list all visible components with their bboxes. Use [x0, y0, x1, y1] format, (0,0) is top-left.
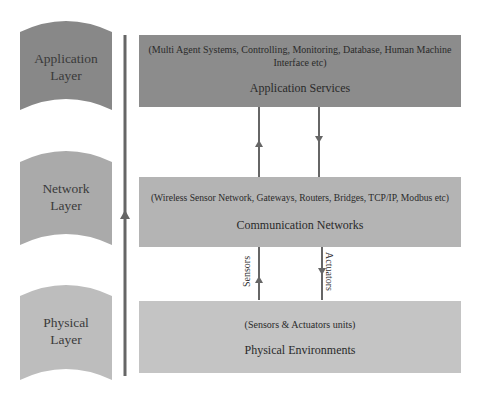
network-layer-label: Network Layer: [20, 180, 112, 214]
layer-label-line1: Application: [20, 50, 112, 67]
communication-networks-box: (Wireless Sensor Network, Gateways, Rout…: [139, 177, 461, 247]
layer-label-line1: Physical: [20, 314, 112, 331]
physical-environments-subtitle: (Sensors & Actuators units): [139, 318, 461, 331]
application-services-box: (Multi Agent Systems, Controlling, Monit…: [139, 35, 461, 107]
communication-networks-subtitle: (Wireless Sensor Network, Gateways, Rout…: [139, 191, 461, 204]
layer-label-line2: Layer: [20, 197, 112, 214]
physical-layer-label: Physical Layer: [20, 314, 112, 348]
layer-label-line2: Layer: [20, 67, 112, 84]
sensors-label: Sensors: [241, 256, 252, 287]
communication-networks-title: Communication Networks: [139, 218, 461, 233]
layer-label-line2: Layer: [20, 331, 112, 348]
actuators-label: Actuators: [324, 252, 335, 291]
main-arrow-head-icon: [120, 210, 130, 219]
physical-environments-title: Physical Environments: [139, 343, 461, 358]
application-services-title: Application Services: [145, 81, 455, 96]
up-arrowhead-icon: [255, 140, 263, 147]
application-services-subtitle: (Multi Agent Systems, Controlling, Monit…: [145, 43, 455, 69]
sensors-arrowhead-icon: [255, 276, 263, 283]
layer-label-line1: Network: [20, 180, 112, 197]
application-layer-label: Application Layer: [20, 50, 112, 84]
down-arrowhead-icon: [315, 136, 323, 143]
physical-environments-box: (Sensors & Actuators units) Physical Env…: [139, 301, 461, 373]
